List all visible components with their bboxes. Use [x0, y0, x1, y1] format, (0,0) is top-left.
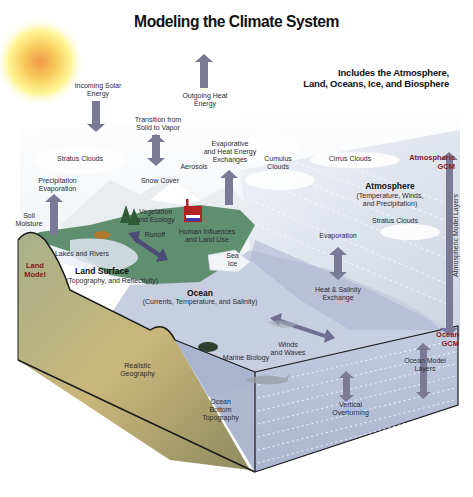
outgoing-heat-arrow [195, 54, 213, 88]
label-atmospheric-model-layers: Atmospheric Model Layers [452, 191, 459, 281]
label-human-influences: Human Influences and Land Use [172, 228, 242, 244]
label-land-model: Land Model [20, 262, 50, 279]
label-land-surface-desc: (Topography, and Reflectivity) [62, 277, 162, 285]
deer-icon [94, 231, 110, 239]
label-cumulus: Cumulus Clouds [258, 155, 298, 171]
label-realistic-geography: Realistic Geography [115, 362, 160, 378]
label-vegetation: Vegetation and Ecology [128, 208, 183, 224]
label-runoff: Runoff [140, 231, 170, 239]
label-vertical-overturning: Vertical Overturning [328, 401, 373, 417]
label-cirrus: Cirrus Clouds [320, 155, 380, 163]
label-incoming-solar: Incoming Solar Energy [68, 82, 128, 98]
label-transition: Transition from Solid to Vapor [128, 116, 188, 132]
label-ocean-gcm: Ocean GCM [425, 331, 459, 348]
label-sea-ice: Sea Ice [220, 252, 245, 268]
label-outgoing-heat: Outgoing Heat Energy [175, 92, 235, 108]
label-atmosphere-desc: (Temperature, Winds, and Precipitation) [350, 192, 430, 208]
label-ocean-bottom: Ocean Bottom Topography [198, 398, 243, 422]
label-lakes: Lakes and Rivers [52, 250, 112, 258]
label-precipitation: Precipitation Evaporation [30, 177, 85, 193]
label-stratus-clouds-right: Stratus Clouds [365, 217, 425, 225]
label-aerosols: Aerosols [174, 163, 214, 171]
page-title: Modeling the Climate System [19, 12, 454, 32]
label-land-surface: Land Surface [62, 267, 142, 276]
label-evaporation: Evaporation [313, 232, 363, 240]
label-ocean-desc: (Currents, Temperature, and Salinity) [130, 298, 270, 306]
turtle-icon [198, 342, 218, 352]
label-evap-heat: Evaporative and Heat Energy Exchanges [200, 140, 260, 164]
label-atmospheric-gcm: Atmospheric GCM [395, 154, 455, 171]
label-atmosphere: Atmosphere [355, 182, 425, 191]
label-stratus-clouds-left: Stratus Clouds [50, 155, 110, 163]
label-soil-moisture: Soil Moisture [14, 212, 44, 228]
subtitle: Includes the Atmosphere, Land, Oceans, I… [303, 67, 449, 89]
label-ocean: Ocean [175, 289, 225, 298]
label-snow-cover: Snow Cover [135, 177, 185, 185]
label-marine-biology: Marine Biology [216, 354, 276, 362]
label-ocean-model-layers: Ocean Model Layers [400, 357, 450, 373]
label-heat-salinity: Heat & Salinity Exchange [308, 286, 368, 302]
